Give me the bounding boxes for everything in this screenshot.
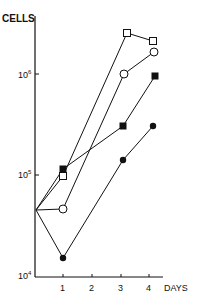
y-tick-label-1e6: 106 [18,69,32,80]
marker-open-circle [150,48,158,56]
marker-open-circle [120,70,128,78]
marker-open-square [60,173,67,180]
marker-filled-square [60,166,67,173]
marker-open-circle [59,205,67,213]
x-tick-label-1: 1 [60,283,65,293]
chart: CELLS DAYS 106 105 104 1 2 3 4 [0,0,202,301]
x-axis-label: DAYS [164,283,188,293]
marker-filled-circle [120,157,126,163]
marker-open-square [124,30,131,37]
marker-filled-square [120,123,127,130]
marker-open-square [150,38,157,45]
y-tick-label-1e5: 105 [18,169,32,180]
y-tick-label-1e4: 104 [18,270,32,281]
marker-filled-square [152,73,159,80]
series-open-circle-line [36,52,154,210]
x-tick-label-4: 4 [146,283,151,293]
marker-filled-circle [60,255,66,261]
x-tick-label-3: 3 [118,283,123,293]
series-filled-square-line [36,76,155,210]
y-axis-label: CELLS [2,13,35,24]
series-filled-circle-line [36,126,153,258]
marker-filled-circle [150,123,156,129]
x-tick-label-2: 2 [89,283,94,293]
